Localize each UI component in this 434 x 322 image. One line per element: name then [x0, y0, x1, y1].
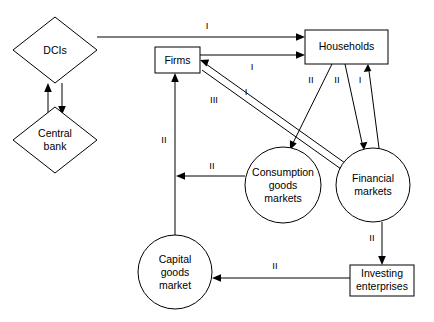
- node-dcis[interactable]: DCIs: [13, 17, 97, 83]
- central-bank-label-line1: Central: [38, 127, 72, 139]
- edge-consumption-to-firms: II: [176, 160, 245, 180]
- edge-label-investing-to-capital: II: [272, 260, 277, 271]
- edge-label-financial-to-firms: I: [245, 86, 248, 97]
- households-label: Households: [319, 40, 374, 52]
- diagram-canvas: I I II II: [0, 0, 434, 322]
- edge-firms-to-households: I: [200, 51, 305, 71]
- arrowhead-into-firms-junction: [176, 172, 185, 180]
- arrowhead-into-dcis: [44, 83, 52, 92]
- arrowhead-into-households: [364, 64, 372, 72]
- consumption-label-line1: Consumption: [252, 166, 314, 178]
- edge-capital-to-firms: II: [161, 73, 178, 235]
- node-capital-goods-market[interactable]: Capital goods market: [138, 235, 212, 309]
- node-consumption-goods-markets[interactable]: Consumption goods markets: [245, 147, 321, 223]
- financial-label-line2: markets: [354, 185, 391, 197]
- capital-label-line2: goods: [161, 266, 190, 278]
- edge-label-firms-to-households: I: [251, 61, 254, 72]
- node-central-bank[interactable]: Central bank: [13, 107, 97, 173]
- arrowhead-into-households: [296, 51, 305, 59]
- flow-diagram: I I II II: [0, 0, 434, 322]
- financial-label-line1: Financial: [352, 172, 394, 184]
- arrowhead-into-households: [296, 33, 305, 41]
- edge-financial-to-investing: II: [369, 222, 385, 265]
- central-bank-label-line2: bank: [44, 140, 68, 152]
- edge-investing-to-capital: II: [212, 260, 350, 282]
- edge-label-financial-to-investing: II: [369, 232, 374, 243]
- consumption-label-line3: markets: [264, 192, 301, 204]
- edge-financial-to-households: I: [359, 64, 379, 148]
- edge-households-to-financial: II: [334, 64, 367, 150]
- edge-label-dcis-to-households: I: [206, 20, 209, 31]
- edge-label-consumption-to-firms: II: [209, 160, 214, 171]
- firms-label: Firms: [164, 54, 190, 66]
- edge-dcis-to-households: I: [97, 20, 305, 41]
- edge-label-firms-to-financial: III: [210, 94, 218, 105]
- edge-label-financial-to-households: I: [359, 74, 362, 85]
- capital-label-line3: market: [159, 279, 191, 291]
- arrowhead-into-investing: [378, 256, 386, 265]
- node-financial-markets[interactable]: Financial markets: [336, 148, 410, 222]
- edge-label-households-to-financial: II: [334, 74, 339, 85]
- node-investing-enterprises[interactable]: Investing enterprises: [350, 265, 414, 296]
- arrowhead-into-capital: [212, 274, 221, 282]
- edge-line: [369, 71, 379, 148]
- dcis-label: DCIs: [43, 44, 66, 56]
- investing-label-line1: Investing: [361, 267, 403, 279]
- edge-label-capital-to-firms: II: [161, 134, 166, 145]
- arrowhead-into-firms: [171, 73, 179, 82]
- consumption-label-line2: goods: [269, 179, 298, 191]
- edge-financial-to-firms: I: [200, 60, 345, 164]
- node-households[interactable]: Households: [305, 30, 388, 64]
- edge-label-households-to-consumption: II: [308, 74, 313, 85]
- node-firms[interactable]: Firms: [155, 47, 200, 73]
- investing-label-line2: enterprises: [356, 280, 408, 292]
- capital-label-line1: Capital: [159, 253, 192, 265]
